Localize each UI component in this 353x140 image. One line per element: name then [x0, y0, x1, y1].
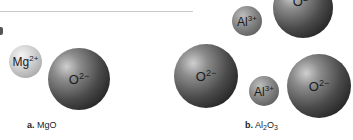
ion-o-2minus-right: O2− — [287, 54, 351, 118]
ion-label: O2− — [293, 0, 313, 8]
ion-label: Mg2+ — [13, 55, 39, 68]
divider-line — [0, 11, 193, 12]
ion-o-2minus-a: O2− — [48, 48, 110, 110]
ion-label: O2− — [309, 79, 329, 93]
ion-label: O2− — [196, 69, 216, 83]
caption-a: a. MgO — [27, 120, 57, 130]
caption-b: b. Al2O3 — [245, 120, 278, 131]
ionic-size-figure: Mg2+ O2− a. MgO Al3+ O2− O2− Al3+ O2− b.… — [0, 0, 353, 140]
ion-mg-2plus: Mg2+ — [9, 45, 42, 78]
ion-label: Al3+ — [254, 85, 274, 98]
ion-al-3plus-top: Al3+ — [232, 6, 262, 36]
ion-o-2minus-top: O2− — [273, 0, 333, 38]
ion-o-2minus-left: O2− — [174, 44, 238, 108]
ion-label: O2− — [69, 72, 89, 86]
clipped-edge-mark — [0, 27, 3, 35]
ion-al-3plus-bottom: Al3+ — [249, 76, 279, 106]
ion-label: Al3+ — [237, 15, 257, 28]
